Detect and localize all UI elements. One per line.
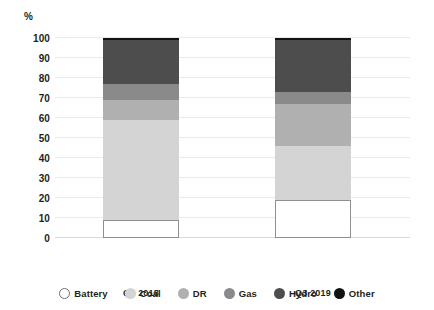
legend-label: Other (349, 288, 375, 299)
y-axis-tick-label: 0 (6, 233, 50, 244)
legend-label: Coal (140, 288, 161, 299)
legend-swatch-dr-icon (178, 288, 189, 299)
legend-item-gas[interactable]: Gas (224, 288, 257, 299)
chart-legend: BatteryCoalDRGasHydroOther (0, 288, 434, 299)
legend-swatch-gas-icon (224, 288, 235, 299)
legend-label: Battery (74, 288, 107, 299)
legend-item-coal[interactable]: Coal (125, 288, 161, 299)
bar-segment-coal (275, 146, 351, 200)
legend-swatch-hydro-icon (274, 288, 285, 299)
legend-swatch-coal-icon (125, 288, 136, 299)
bar-segment-gas (103, 84, 179, 100)
bar-q3-2019 (275, 38, 351, 238)
bar-segment-coal (103, 120, 179, 220)
bar-segment-other (275, 38, 351, 40)
y-axis-tick-label: 80 (6, 73, 50, 84)
legend-item-other[interactable]: Other (334, 288, 375, 299)
y-axis-tick-label: 10 (6, 213, 50, 224)
y-axis-tick-label: 70 (6, 93, 50, 104)
legend-swatch-battery-icon (59, 288, 70, 299)
y-axis-tick-label: 30 (6, 173, 50, 184)
bar-segment-dr (275, 104, 351, 146)
y-axis-tick-labels: 0102030405060708090100 (0, 38, 50, 238)
stacked-bar-chart: % 0102030405060708090100 Q3 2018Q3 2019 … (0, 0, 434, 310)
y-axis-unit-label: % (24, 11, 33, 22)
legend-swatch-other-icon (334, 288, 345, 299)
bar-segment-battery (103, 220, 179, 238)
bar-segment-battery (275, 200, 351, 238)
plot-area: Q3 2018Q3 2019 (55, 38, 410, 238)
legend-label: Hydro (289, 288, 317, 299)
bar-segment-gas (275, 92, 351, 104)
y-axis-tick-label: 40 (6, 153, 50, 164)
legend-item-dr[interactable]: DR (178, 288, 207, 299)
legend-item-battery[interactable]: Battery (59, 288, 107, 299)
bar-segment-hydro (275, 40, 351, 92)
bar-segment-hydro (103, 40, 179, 84)
bar-segment-dr (103, 100, 179, 120)
legend-label: Gas (239, 288, 257, 299)
bar-q3-2018 (103, 38, 179, 238)
y-axis-tick-label: 20 (6, 193, 50, 204)
y-axis-tick-label: 50 (6, 133, 50, 144)
legend-label: DR (193, 288, 207, 299)
y-axis-tick-label: 60 (6, 113, 50, 124)
y-axis-tick-label: 90 (6, 53, 50, 64)
y-axis-tick-label: 100 (6, 33, 50, 44)
bar-segment-other (103, 38, 179, 40)
legend-item-hydro[interactable]: Hydro (274, 288, 317, 299)
